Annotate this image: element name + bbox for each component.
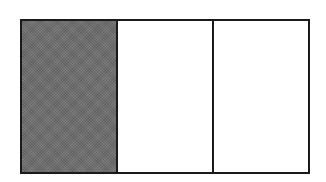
- part-2-unshaded: [116, 21, 212, 172]
- part-1-shaded: [22, 21, 116, 172]
- part-3-unshaded: [212, 21, 308, 172]
- fraction-bar: [20, 19, 310, 174]
